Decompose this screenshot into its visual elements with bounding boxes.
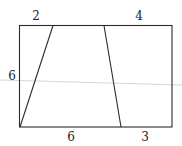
right-slant-segment <box>104 26 121 128</box>
outer-rectangle <box>20 26 173 128</box>
geometry-diagram: 2 4 6 6 3 <box>0 0 182 146</box>
left-slant-segment <box>20 26 53 128</box>
guide-line <box>0 80 182 85</box>
label-top-left: 2 <box>32 9 40 23</box>
label-top-right: 4 <box>135 9 143 23</box>
label-bottom-left: 6 <box>67 130 75 144</box>
label-bottom-right: 3 <box>141 130 149 144</box>
label-left-side: 6 <box>8 69 16 83</box>
